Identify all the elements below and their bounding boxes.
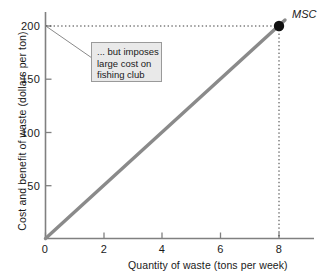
x-tick-label-2: 2 <box>101 243 107 255</box>
x-tick-label-6: 6 <box>217 243 223 255</box>
y-axis-title: Cost and benefit of waste (dollars per t… <box>16 31 28 231</box>
x-tick-label-0: 0 <box>42 243 48 255</box>
y-axis-ticks <box>46 26 52 186</box>
cost-annotation-line-1: ... but imposes <box>97 46 157 58</box>
chart-figure: 50 100 150 200 0 2 4 6 8 Cost and benefi… <box>0 0 323 278</box>
x-tick-label-4: 4 <box>159 243 165 255</box>
cost-annotation-line-3: fishing club <box>97 69 157 81</box>
msc-endpoint-marker <box>274 21 284 31</box>
cost-annotation-box: ... but imposes large cost on fishing cl… <box>91 42 162 82</box>
msc-series-line <box>46 20 286 239</box>
series-label-msc: MSC <box>292 8 316 20</box>
annotation-leader-line <box>47 27 93 59</box>
x-axis-title: Quantity of waste (tons per week) <box>128 259 288 271</box>
x-tick-label-8: 8 <box>276 243 282 255</box>
x-axis-ticks <box>46 233 280 239</box>
cost-annotation-line-2: large cost on <box>97 58 157 70</box>
